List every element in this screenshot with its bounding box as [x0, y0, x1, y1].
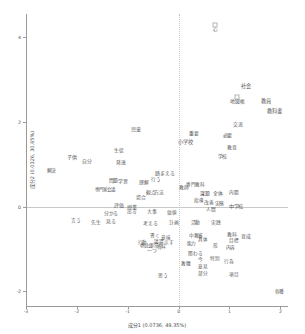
- x-axis-tick-label: 2: [279, 309, 282, 314]
- scatter-point-label: 今: [198, 258, 203, 263]
- scatter-point-label: 思う: [158, 273, 168, 278]
- scatter-point-label: 人間: [206, 208, 216, 213]
- scatter-point-label: 教師: [179, 186, 189, 191]
- scatter-point-label: 内閣: [229, 191, 239, 196]
- scatter-point-label: 能力: [187, 242, 197, 247]
- scatter-point-label: 出る: [127, 210, 137, 215]
- scatter-point-label: 解決: [47, 169, 57, 174]
- scatter-point-label: 資料: [157, 244, 167, 249]
- scatter-point-label: 評価: [114, 203, 124, 208]
- scatter-point-label: 先生: [91, 221, 101, 226]
- scatter-point-label: 教科書: [267, 109, 281, 114]
- y-axis-tick-label: 0: [12, 204, 21, 209]
- scatter-point-label: 計画: [169, 221, 179, 226]
- scatter-point-label: 行為: [224, 260, 234, 265]
- scatter-point-label: 見る: [106, 220, 116, 225]
- scatter-point-label: 内容: [226, 245, 236, 250]
- scatter-point-label: 課題: [200, 191, 210, 196]
- scatter-point-label: 必要: [223, 132, 233, 137]
- scatter-point-label: 心: [213, 28, 218, 33]
- scatter-point-label: 中学校: [229, 203, 243, 208]
- scatter-point-label: 小学校: [178, 140, 192, 145]
- scatter-point-label: 各種: [275, 290, 285, 295]
- y-axis-tick-label: 4: [12, 35, 21, 40]
- scatter-point-label: 発達: [116, 160, 126, 165]
- scatter-plot-figure: -3-2-1012420-2 心社会地図帳教員教科書交流必要児童重要小学校教育学…: [0, 0, 305, 334]
- y-axis-title: 成分2 (0.0326, 30.65%): [28, 131, 35, 189]
- scatter-point-label: 学校: [218, 155, 228, 160]
- scatter-point-label: 交流: [233, 122, 243, 127]
- scatter-point-label: 育成: [241, 235, 251, 240]
- scatter-point-label: 形: [213, 244, 218, 249]
- scatter-point-label: 大事: [147, 209, 157, 214]
- scatter-point-label: 特別: [210, 257, 220, 262]
- scatter-point-label: 意見: [198, 265, 208, 270]
- scatter-point-label: 部分: [198, 272, 208, 277]
- scatter-point-label: 目標: [229, 239, 239, 244]
- scatter-point-label: 子供: [67, 154, 77, 159]
- x-axis-tick-label: -3: [24, 309, 29, 314]
- scatter-point-label: 社会: [241, 85, 251, 90]
- x-axis-spine: [26, 306, 288, 307]
- y-axis-tick: [23, 291, 26, 292]
- scatter-point-label: 地図帳: [230, 100, 244, 105]
- scatter-point-label: 生徒: [114, 148, 124, 153]
- scatter-point-label: 一つ: [147, 249, 157, 254]
- x-axis-tick-label: -1: [125, 309, 130, 314]
- scatter-point-label: 実践: [211, 221, 221, 226]
- y-axis-tick: [23, 207, 26, 208]
- x-axis-tick-label: 1: [228, 309, 231, 314]
- x-axis-tick-label: -2: [75, 309, 80, 314]
- scatter-point-label: 具体: [198, 238, 208, 243]
- y-axis-tick-label: -2: [12, 289, 21, 294]
- origin-vertical-line: [179, 14, 180, 306]
- y-axis-tick: [23, 122, 26, 123]
- scatter-point-label: 教職: [181, 261, 191, 266]
- scatter-point-label: 理解: [139, 181, 149, 186]
- scatter-point-label: 専門家会議: [95, 188, 114, 192]
- scatter-point-label: 指導: [194, 199, 204, 204]
- scatter-point-label: 教育: [227, 145, 237, 150]
- scatter-point-label: 行う: [151, 178, 161, 183]
- scatter-point-label: 自分: [82, 159, 92, 164]
- y-axis-tick: [23, 37, 26, 38]
- y-axis-tick-label: 2: [12, 119, 21, 124]
- scatter-point-label: 重要: [189, 131, 199, 136]
- scatter-point-label: 価値: [167, 211, 177, 216]
- scatter-point-label: 場合: [136, 196, 146, 201]
- scatter-point-label: 言う: [71, 218, 81, 223]
- scatter-point-label: 児童: [131, 127, 141, 132]
- scatter-point-label: 関わる: [188, 252, 202, 257]
- scatter-point-label: 実態: [215, 202, 225, 207]
- scatter-point-label: 全体: [213, 191, 223, 196]
- scatter-point-label: 学習: [118, 180, 128, 185]
- scatter-point-label: 改善: [204, 200, 214, 205]
- scatter-point-label: 分かる: [104, 211, 118, 216]
- scatter-point-label: 方法: [154, 191, 164, 196]
- x-axis-title: 成分1 (0.0736, 49.35%): [128, 321, 186, 328]
- scatter-point-label: 活動: [191, 221, 201, 226]
- scatter-point-label: 考える: [143, 221, 157, 226]
- x-axis-tick-label: 0: [177, 309, 180, 314]
- scatter-point-label: 項目: [229, 273, 239, 278]
- scatter-point-label: 教員: [261, 99, 271, 104]
